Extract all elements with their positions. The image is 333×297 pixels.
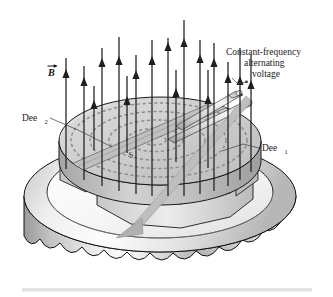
voltage-caption-line-1: Constant-frequency <box>226 47 301 57</box>
field-arrowhead <box>132 70 139 79</box>
field-arrowhead <box>210 58 217 67</box>
field-arrowhead <box>180 38 187 47</box>
dee-1-label-subscript: 1 <box>285 148 288 155</box>
bottom-divider-rule <box>22 288 312 292</box>
field-arrowhead <box>224 74 231 83</box>
field-arrowhead <box>247 80 254 89</box>
field-arrowhead <box>115 56 122 65</box>
field-arrowhead <box>98 58 105 67</box>
cyclotron-diagram-canvas: B Dee 2 Dee 1 S Constant-frequency alter… <box>0 0 333 297</box>
field-arrowhead <box>148 56 155 65</box>
voltage-leader-dot-lower <box>240 93 243 96</box>
field-arrowhead <box>80 77 87 86</box>
dee-2-label-subscript: 2 <box>45 118 48 125</box>
field-arrowhead <box>164 42 171 51</box>
voltage-caption-line-2: alternating <box>244 58 285 68</box>
voltage-caption-line-3: voltage <box>252 69 280 79</box>
dee-2-label-base: Dee <box>22 113 37 123</box>
b-vector-arrow-head <box>54 64 58 67</box>
magnetic-field-label: B <box>47 67 55 78</box>
field-arrowhead <box>172 88 179 97</box>
cyclotron-figure: B Dee 2 Dee 1 S Constant-frequency alter… <box>0 0 333 297</box>
dee-1-label-base: Dee <box>262 143 277 153</box>
field-arrowhead <box>196 54 203 63</box>
field-arrowhead <box>90 100 97 109</box>
field-arrowhead <box>204 95 211 104</box>
field-arrowhead <box>62 69 69 78</box>
voltage-leader-dot-upper <box>245 80 248 83</box>
